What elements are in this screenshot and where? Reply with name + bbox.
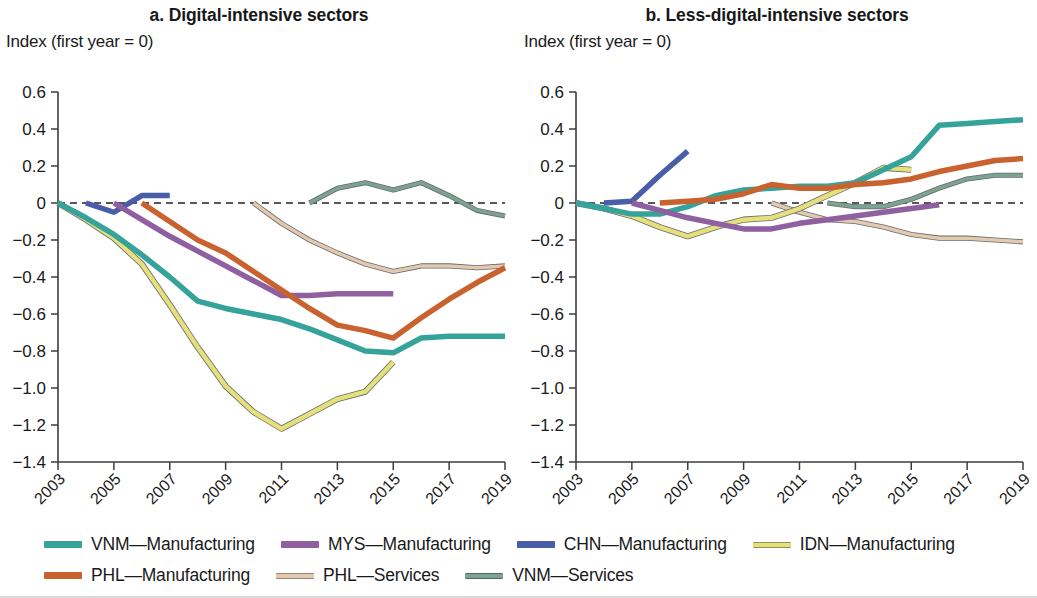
legend-item-label: CHN—Manufacturing	[564, 534, 727, 555]
y-tick-label: −0.2	[530, 231, 564, 250]
y-tick-label: −1.0	[530, 379, 564, 398]
legend-item[interactable]: VNM—Services	[465, 565, 633, 586]
x-tick-label: 2011	[255, 470, 291, 506]
x-tick-label: 2009	[199, 470, 236, 507]
panel-b-title: b. Less-digital-intensive sectors	[518, 0, 1036, 28]
x-tick-label: 2011	[773, 470, 809, 506]
series-line-VNM—Services	[309, 183, 505, 216]
y-tick-label: −0.4	[530, 268, 564, 287]
y-tick-label: 0.2	[22, 157, 46, 176]
x-tick-label: 2003	[549, 470, 586, 507]
y-tick-label: 0.6	[540, 83, 564, 102]
x-tick-label: 2013	[310, 470, 347, 507]
legend-swatch-icon	[517, 541, 555, 548]
legend-item-label: PHL—Services	[323, 565, 439, 586]
chart-legend: VNM—ManufacturingMYS—ManufacturingCHN—Ma…	[0, 525, 1037, 598]
y-tick-label: −1.2	[12, 416, 46, 435]
legend-item[interactable]: PHL—Services	[276, 565, 439, 586]
legend-swatch-icon	[281, 541, 319, 548]
x-tick-label: 2013	[828, 470, 865, 507]
y-tick-label: −1.0	[12, 379, 46, 398]
x-tick-label: 2015	[884, 470, 921, 507]
x-tick-label: 2005	[605, 470, 642, 507]
legend-item-label: VNM—Manufacturing	[91, 534, 255, 555]
legend-item-label: IDN—Manufacturing	[800, 534, 955, 555]
y-tick-label: −0.6	[530, 305, 564, 324]
series-line-PHL—Manufacturing	[142, 203, 505, 338]
y-tick-label: −0.8	[530, 342, 564, 361]
legend-swatch-icon	[753, 542, 791, 548]
y-tick-label: 0	[555, 194, 564, 213]
legend-item-label: VNM—Services	[512, 565, 633, 586]
x-tick-label: 2019	[478, 470, 515, 507]
legend-item[interactable]: IDN—Manufacturing	[753, 534, 955, 555]
series-line-PHL—Services	[254, 203, 505, 271]
x-tick-label: 2015	[366, 470, 403, 507]
series-line-CHN—Manufacturing	[604, 151, 688, 203]
y-tick-label: −1.4	[12, 453, 46, 472]
panel-b: b. Less-digital-intensive sectors Index …	[518, 0, 1036, 525]
x-tick-label: 2019	[996, 470, 1033, 507]
panel-a-title: a. Digital-intensive sectors	[0, 0, 518, 28]
y-tick-label: −0.2	[12, 231, 46, 250]
panel-a: a. Digital-intensive sectors Index (firs…	[0, 0, 518, 525]
y-tick-label: −0.8	[12, 342, 46, 361]
y-tick-label: −0.6	[12, 305, 46, 324]
legend-item[interactable]: MYS—Manufacturing	[281, 534, 491, 555]
panels-container: a. Digital-intensive sectors Index (firs…	[0, 0, 1037, 525]
y-tick-label: −1.4	[530, 453, 564, 472]
panel-a-plot-area: 0.60.40.20−0.2−0.4−0.6−0.8−1.0−1.2−1.420…	[0, 52, 518, 525]
legend-item-label: PHL—Manufacturing	[91, 565, 250, 586]
panel-b-plot-area: 0.60.40.20−0.2−0.4−0.6−0.8−1.0−1.2−1.420…	[518, 52, 1036, 525]
legend-swatch-icon	[44, 541, 82, 548]
legend-item[interactable]: VNM—Manufacturing	[44, 534, 255, 555]
legend-swatch-icon	[465, 573, 503, 579]
y-tick-label: 0	[37, 194, 46, 213]
legend-item[interactable]: CHN—Manufacturing	[517, 534, 727, 555]
x-tick-label: 2003	[31, 470, 68, 507]
series-outline-PHL—Services	[254, 203, 505, 271]
x-tick-label: 2007	[661, 470, 698, 507]
panel-b-chart-svg: 0.60.40.20−0.2−0.4−0.6−0.8−1.0−1.2−1.420…	[518, 52, 1036, 525]
x-tick-label: 2017	[940, 470, 977, 507]
x-tick-label: 2007	[143, 470, 180, 507]
x-tick-label: 2009	[717, 470, 754, 507]
y-tick-label: 0.2	[540, 157, 564, 176]
figure-root: a. Digital-intensive sectors Index (firs…	[0, 0, 1037, 598]
x-tick-label: 2017	[422, 470, 459, 507]
y-tick-label: −1.2	[530, 416, 564, 435]
legend-item[interactable]: PHL—Manufacturing	[44, 565, 250, 586]
panel-a-chart-svg: 0.60.40.20−0.2−0.4−0.6−0.8−1.0−1.2−1.420…	[0, 52, 518, 525]
x-tick-label: 2005	[87, 470, 124, 507]
legend-row-second: PHL—ManufacturingPHL—ServicesVNM—Service…	[0, 560, 1037, 591]
legend-item-label: MYS—Manufacturing	[328, 534, 491, 555]
legend-swatch-icon	[276, 573, 314, 579]
y-tick-label: 0.4	[540, 120, 564, 139]
legend-swatch-icon	[44, 572, 82, 579]
y-tick-label: −0.4	[12, 268, 46, 287]
legend-row-first: VNM—ManufacturingMYS—ManufacturingCHN—Ma…	[0, 529, 1037, 560]
y-tick-label: 0.6	[22, 83, 46, 102]
y-tick-label: 0.4	[22, 120, 46, 139]
